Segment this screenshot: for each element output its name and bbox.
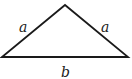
right-side-label: a	[101, 19, 109, 35]
left-side-label: a	[19, 19, 27, 35]
base-label: b	[61, 64, 70, 79]
triangle-diagram: a a b	[0, 0, 132, 79]
